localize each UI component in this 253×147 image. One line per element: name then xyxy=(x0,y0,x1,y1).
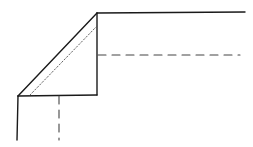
top-edge-line xyxy=(97,12,245,13)
solid-outline xyxy=(17,12,245,140)
fold-diagram xyxy=(0,0,253,147)
diagram-canvas xyxy=(0,0,253,147)
dotted-fold-line xyxy=(30,26,97,95)
inner-diagonal-line xyxy=(30,26,97,95)
left-vertical-line xyxy=(17,96,18,140)
dashed-guide-lines xyxy=(59,55,240,140)
diagonal-line xyxy=(18,13,97,96)
